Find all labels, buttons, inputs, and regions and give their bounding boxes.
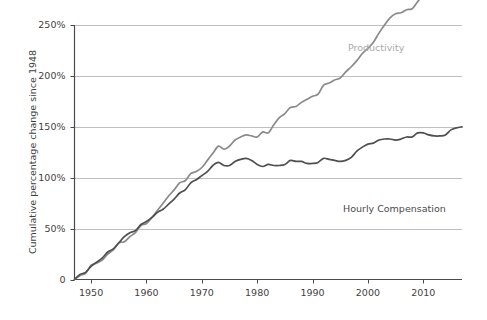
x-tick-label: 2010 [411, 287, 435, 298]
x-tick-label: 1980 [245, 287, 269, 298]
y-tick-label: 100% [38, 172, 65, 183]
x-tick-label: 1960 [134, 287, 158, 298]
series-label-productivity: Productivity [348, 42, 405, 53]
x-tick-label: 1990 [300, 287, 324, 298]
chart-background [0, 0, 487, 320]
x-tick-label: 2000 [356, 287, 380, 298]
y-tick-label: 50% [44, 223, 65, 234]
y-tick-label: 0 [59, 274, 65, 285]
series-label-hourly-compensation: Hourly Compensation [343, 203, 446, 214]
x-tick-label: 1970 [190, 287, 214, 298]
y-tick-label: 150% [38, 121, 65, 132]
y-axis-title: Cumulative percentage change since 1948 [27, 50, 38, 254]
x-tick-label: 1950 [79, 287, 103, 298]
y-tick-label: 250% [38, 19, 65, 30]
y-tick-label: 200% [38, 70, 65, 81]
chart-canvas: 050%100%150%200%250% 1950196019701980199… [0, 0, 487, 320]
productivity-pay-gap-chart: 050%100%150%200%250% 1950196019701980199… [0, 0, 487, 320]
